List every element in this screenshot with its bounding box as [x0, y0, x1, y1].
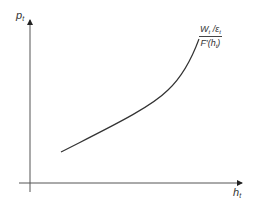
curve-label-numerator: Wt /εt: [199, 24, 222, 37]
supply-curve: [61, 39, 199, 152]
x-axis-label: ht: [233, 187, 241, 199]
y-axis-label: pt: [16, 10, 24, 22]
curve-label-denominator: F′(ht): [199, 37, 222, 49]
curve-label: Wt /εt F′(ht): [199, 24, 222, 49]
diagram: pt ht Wt /εt F′(ht): [0, 0, 257, 206]
